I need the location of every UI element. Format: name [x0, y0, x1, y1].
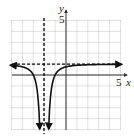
- x-tick-label: 5: [116, 76, 122, 88]
- y-tick-label: 5: [59, 13, 65, 25]
- function-graph: y 5 5 x: [0, 0, 134, 138]
- x-axis-label: x: [125, 76, 131, 88]
